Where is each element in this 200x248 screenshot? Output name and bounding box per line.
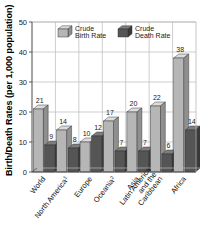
y-tick-label: 40	[19, 48, 27, 57]
y-tick-label: 0	[23, 168, 27, 177]
value-label-death: 6	[166, 142, 170, 149]
bar-death-5	[162, 154, 172, 172]
light-cube-icon	[58, 26, 72, 37]
value-label-birth: 21	[36, 97, 44, 104]
value-label-death: 14	[188, 118, 196, 125]
bar-birth-1	[57, 130, 67, 172]
bar-birth-4	[127, 112, 137, 172]
bar-death-3	[115, 151, 125, 172]
bar-birth-5	[150, 106, 160, 172]
legend-label: Crude	[135, 25, 154, 32]
y-axis-title: Birth/Death Rates (per 1,000 population)	[4, 4, 14, 176]
chart-canvas: Birth/Death Rates (per 1,000 population)…	[0, 0, 200, 248]
value-label-death: 9	[49, 133, 53, 140]
value-label-birth: 20	[129, 100, 137, 107]
bar-birth-2	[80, 142, 90, 172]
value-label-death: 8	[73, 136, 77, 143]
value-label-birth: 22	[153, 94, 161, 101]
value-label-death: 7	[120, 139, 124, 146]
value-label-birth: 17	[106, 109, 114, 116]
value-label-death: 7	[143, 139, 147, 146]
value-label-birth: 10	[83, 130, 91, 137]
bar-birth-6	[174, 58, 184, 172]
bar-death-2	[92, 136, 102, 172]
bar-death-6	[185, 130, 195, 172]
bar-birth-0	[33, 109, 43, 172]
value-label-birth: 38	[176, 46, 184, 53]
dark-cube-icon	[118, 26, 132, 37]
value-label-death: 12	[94, 124, 102, 131]
value-label-birth: 14	[59, 118, 67, 125]
birth-death-rates-chart: Birth/Death Rates (per 1,000 population)…	[0, 0, 200, 248]
legend-label: Crude	[75, 25, 94, 32]
legend-label: Birth Rate	[75, 32, 106, 39]
bar-birth-3	[103, 121, 113, 172]
y-tick-label: 20	[19, 108, 27, 117]
y-tick-label: 50	[19, 18, 27, 27]
bar-death-1	[68, 148, 78, 172]
legend-label: Death Rate	[135, 32, 171, 39]
y-tick-label: 30	[19, 78, 27, 87]
y-tick-label: 10	[19, 138, 27, 147]
